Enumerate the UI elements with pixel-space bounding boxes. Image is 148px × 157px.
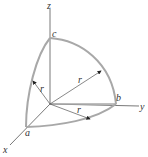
point-b-label: b — [116, 92, 121, 103]
radius-line-bottom — [50, 104, 90, 119]
y-axis-label: y — [139, 101, 145, 112]
point-c-label: c — [52, 28, 57, 39]
x-axis — [10, 104, 50, 145]
arc-c-to-a — [26, 38, 50, 127]
sphere-octant-diagram: z y x c b a r r r — [0, 0, 148, 157]
radius-label-upper: r — [78, 74, 82, 85]
point-a-label: a — [25, 127, 30, 138]
arc-c-to-b — [50, 38, 116, 104]
radius-label-bottom: r — [77, 104, 81, 115]
x-axis-label: x — [2, 144, 8, 155]
arc-a-to-b — [26, 104, 116, 127]
radius-line-upper — [50, 71, 101, 104]
z-axis-label: z — [46, 0, 51, 11]
radius-label-left: r — [40, 83, 44, 94]
